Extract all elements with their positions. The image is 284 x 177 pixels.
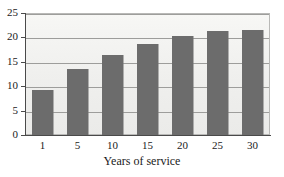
y-tick-label-25: 25 [0,7,18,18]
x-tick-label-1: 1 [25,139,60,151]
x-axis-line [21,135,271,136]
bar[interactable] [172,36,192,135]
x-axis-title: Years of service [0,155,284,168]
bar[interactable] [102,55,122,135]
bar-chart-figure: 0510152025 151015202530 Years of service [0,0,284,177]
bar-slot [137,13,157,135]
x-tick-label-15: 15 [130,139,165,151]
y-tick-label-10: 10 [0,80,18,91]
bar-slot [32,13,52,135]
bar-slot [172,13,192,135]
bar[interactable] [207,31,227,135]
y-tick-label-0: 0 [0,129,18,140]
y-tick-label-5: 5 [0,105,18,116]
y-tick-label-20: 20 [0,31,18,42]
x-tick-label-25: 25 [200,139,235,151]
bar[interactable] [32,90,52,135]
bar[interactable] [242,30,262,135]
y-tick-label-15: 15 [0,56,18,67]
bar[interactable] [67,69,87,135]
x-tick-label-5: 5 [60,139,95,151]
bar-slot [242,13,262,135]
bar-slot [102,13,122,135]
bar[interactable] [137,44,157,135]
x-tick-label-10: 10 [95,139,130,151]
x-tick-label-30: 30 [235,139,270,151]
bar-slot [67,13,87,135]
bar-slot [207,13,227,135]
x-tick-label-20: 20 [165,139,200,151]
bars-layer [25,13,270,135]
y-tick-mark-0 [21,135,25,136]
